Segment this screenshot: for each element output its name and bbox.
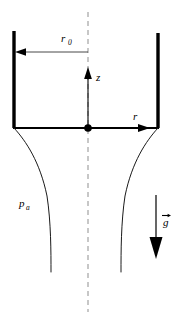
origin-point-dot [84,124,92,132]
z-axis-arrowhead [84,67,92,79]
ambient-pressure-label-subscript: a [26,203,30,212]
radius-label-subscript: 0 [68,38,72,47]
r-axis-label: r [133,110,138,122]
z-axis-label: z [95,71,101,83]
right-free-surface-curve [121,128,158,272]
radius-dimension-arrowhead [15,48,26,56]
ambient-pressure-label-base: p [18,197,25,209]
gravity-vector-arrowhead [150,237,163,259]
physics-diagram: r 0 z r p a g [0,0,184,327]
figure-container: r 0 z r p a g [0,0,184,327]
r-axis-arrowhead [138,124,150,132]
radius-label-base: r [61,32,66,44]
gravity-label: g [163,216,169,228]
